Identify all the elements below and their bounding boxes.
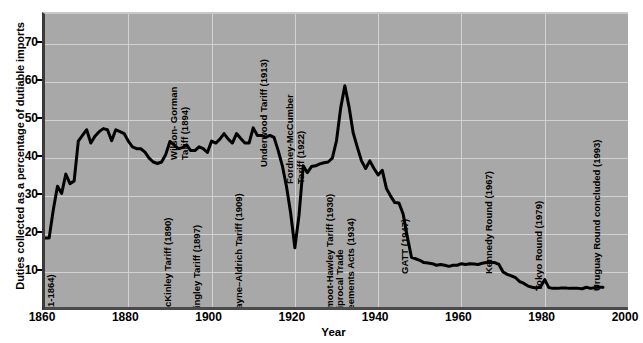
y-tick-label-50: 50 — [4, 112, 38, 124]
y-tick-label-40: 40 — [4, 150, 38, 162]
y-tick-label-20: 20 — [4, 226, 38, 238]
annotation-morrill: Morrill and War Tariffs (1861-1864) — [42, 30, 56, 310]
annotation-fordney: Fordney-McCumber Tariff (1922) — [284, 12, 306, 184]
x-tick-label-1860: 1860 — [12, 310, 72, 324]
y-tick-label-70: 70 — [4, 36, 38, 48]
annotation-kennedy: Kennedy Round (1967) — [483, 12, 494, 274]
y-tick-label-30: 30 — [4, 188, 38, 200]
annotation-gatt: GATT (1947) — [399, 12, 410, 274]
plot-area: Morrill and War Tariffs (1861-1864)McKin… — [42, 12, 628, 310]
y-tick-label-10: 10 — [4, 264, 38, 276]
annotation-dingley: Dingley Tariff (1897) — [191, 19, 202, 310]
y-axis-ticks: 10203040506070 — [0, 0, 38, 343]
x-tick-label-1960: 1960 — [428, 310, 488, 324]
x-axis-title: Year — [42, 326, 625, 338]
annotation-reciprocal: Reciprocal Trade Agreements Acts (1934) — [334, 30, 356, 310]
x-tick-label-1920: 1920 — [262, 310, 322, 324]
x-tick-label-1980: 1980 — [512, 310, 572, 324]
y-tick-label-60: 60 — [4, 74, 38, 86]
annotation-payne: Payne–Aldrich Tariff (1909) — [233, 19, 244, 310]
x-tick-label-2000: 2000 — [595, 310, 643, 324]
x-tick-label-1900: 1900 — [179, 310, 239, 324]
annotation-tokyo: Tokyo Round (1979) — [533, 12, 544, 291]
x-tick-label-1880: 1880 — [95, 310, 155, 324]
annotation-wilson: Wilson- Gorman Tariff (1894) — [168, 12, 190, 160]
x-tick-label-1940: 1940 — [345, 310, 405, 324]
annotation-uruguay: Uruguay Round concluded (1993) — [591, 12, 602, 291]
annotation-underwood: Underwood Tariff (1913) — [258, 12, 269, 167]
